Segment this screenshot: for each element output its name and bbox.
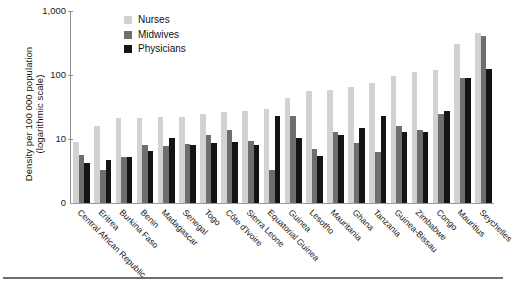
x-label-cell: Guinea-Bissau <box>388 205 409 275</box>
bar-group <box>473 11 494 203</box>
bar-physicians[interactable] <box>232 142 238 203</box>
bar-physicians[interactable] <box>359 128 365 203</box>
bar-groups <box>71 11 494 203</box>
bar-group <box>71 11 92 203</box>
bar-physicians[interactable] <box>148 151 154 203</box>
bar-physicians[interactable] <box>190 145 196 203</box>
x-label-cell: Burkina Faso <box>113 205 134 275</box>
y-axis-title-line1: Density per 100 000 population <box>23 47 35 182</box>
bar-group <box>92 11 113 203</box>
y-axis-title: Density per 100 000 population (logarith… <box>18 19 50 209</box>
bar-physicians[interactable] <box>169 138 175 203</box>
x-label-cell: Tanzania <box>367 205 388 275</box>
bar-group <box>410 11 431 203</box>
bar-physicians[interactable] <box>275 116 281 203</box>
bar-physicians[interactable] <box>465 78 471 203</box>
bar-group <box>134 11 155 203</box>
x-label-cell: Mauritania <box>325 205 346 275</box>
bar-group <box>452 11 473 203</box>
bar-group <box>177 11 198 203</box>
bar-group <box>346 11 367 203</box>
bar-physicians[interactable] <box>296 138 302 203</box>
footer-rule <box>3 277 503 279</box>
bar-physicians[interactable] <box>402 132 408 203</box>
y-tick-label-10: 10 <box>0 133 66 144</box>
bar-physicians[interactable] <box>381 116 387 203</box>
bar-physicians[interactable] <box>423 132 429 203</box>
x-label-cell: Lesotho <box>304 205 325 275</box>
bar-physicians[interactable] <box>254 145 260 203</box>
y-tick-label-1000: 1,000 <box>0 5 66 16</box>
x-label-cell: Senegal <box>177 205 198 275</box>
bar-group <box>219 11 240 203</box>
bar-physicians[interactable] <box>317 156 323 203</box>
bar-physicians[interactable] <box>84 163 90 203</box>
x-label-cell: Sierra Leone <box>240 205 261 275</box>
bar-physicians[interactable] <box>106 160 112 203</box>
x-label-cell: Zimbabwe <box>410 205 431 275</box>
x-tick-label: Seychelles <box>477 208 513 244</box>
x-label-cell: Equatorial Guinea <box>261 205 282 275</box>
x-label-cell: Côte d'Ivoire <box>219 205 240 275</box>
bar-group <box>113 11 134 203</box>
bar-group <box>198 11 219 203</box>
x-label-cell: Eritrea <box>92 205 113 275</box>
bar-physicians[interactable] <box>127 157 133 203</box>
x-label-cell: Mauritius <box>452 205 473 275</box>
x-label-cell: Madagascar <box>156 205 177 275</box>
x-axis-baseline <box>70 203 494 204</box>
bar-group <box>367 11 388 203</box>
bar-physicians[interactable] <box>338 135 344 203</box>
bar-group <box>240 11 261 203</box>
x-label-cell: Guinea <box>283 205 304 275</box>
bar-group <box>156 11 177 203</box>
bar-group <box>261 11 282 203</box>
bar-physicians[interactable] <box>211 143 217 203</box>
bar-group <box>283 11 304 203</box>
bar-group <box>304 11 325 203</box>
x-label-cell: Togo <box>198 205 219 275</box>
x-label-cell: Benin <box>134 205 155 275</box>
y-tick-label-0: 0 <box>0 197 66 208</box>
x-label-cell: Ghana <box>346 205 367 275</box>
x-label-cell: Congo <box>431 205 452 275</box>
bar-physicians[interactable] <box>486 69 492 203</box>
y-tick-label-100: 100 <box>0 69 66 80</box>
x-axis-labels: Central African RepublicEritreaBurkina F… <box>71 205 494 275</box>
bar-physicians[interactable] <box>444 111 450 203</box>
x-label-cell: Seychelles <box>473 205 494 275</box>
x-label-cell: Central African Republic <box>71 205 92 275</box>
bar-group <box>431 11 452 203</box>
bar-group <box>388 11 409 203</box>
bar-group <box>325 11 346 203</box>
